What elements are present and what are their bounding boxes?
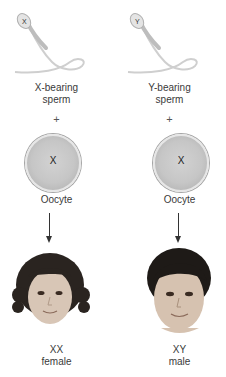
arrow-line (178, 213, 179, 237)
svg-text:X: X (22, 18, 27, 25)
plus-sign: + (0, 114, 113, 125)
x-sperm-column: X X-bearing sperm + X Oocyte XX female (0, 0, 113, 377)
arrow-line (49, 213, 50, 237)
oocyte-chromosome: X (27, 155, 79, 166)
oocyte-chromosome: X (155, 155, 207, 166)
sperm-label-line2: sperm (113, 94, 226, 105)
female-child-face-icon (0, 245, 113, 335)
arrow-down-icon (46, 236, 52, 243)
offspring-karyotype: XX (0, 344, 113, 355)
oocyte-cell: X (25, 134, 81, 192)
male-child-face-icon (113, 242, 226, 337)
oocyte-label: Oocyte (0, 194, 113, 205)
offspring-sex: female (0, 356, 113, 367)
y-sperm-icon: Y (113, 0, 226, 80)
svg-text:Y: Y (135, 18, 140, 25)
offspring-sex: male (123, 356, 226, 367)
oocyte-cell: X (153, 134, 209, 192)
sperm-label-line2: sperm (0, 94, 113, 105)
plus-sign: + (113, 114, 226, 125)
sperm-label-line1: Y-bearing (113, 82, 226, 93)
x-sperm-icon: X (0, 0, 113, 80)
y-sperm-column: Y Y-bearing sperm + X Oocyte XY male (113, 0, 226, 377)
offspring-karyotype: XY (123, 344, 226, 355)
oocyte-label: Oocyte (123, 194, 226, 205)
sperm-label-line1: X-bearing (0, 82, 113, 93)
